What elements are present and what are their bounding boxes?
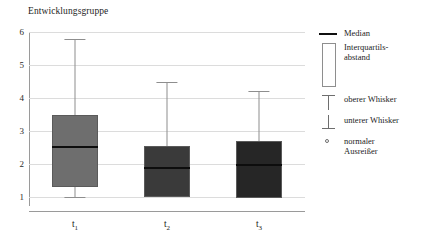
legend-item-outlier: normaler Ausreißer	[318, 136, 422, 156]
legend-label-median: Median	[344, 28, 370, 38]
legend-item-median: Median	[318, 28, 422, 38]
y-tick-label: 3	[20, 126, 25, 136]
upper-whisker	[167, 82, 168, 145]
boxplot-t3	[236, 32, 282, 206]
legend-label-outlier: normaler Ausreißer	[344, 136, 378, 156]
legend-label-iqr: Interquartils- abstand	[344, 42, 388, 62]
y-tick-label: 5	[20, 60, 25, 70]
legend-item-lower-whisker: unterer Whisker	[318, 115, 422, 132]
upper-whisker	[259, 91, 260, 140]
y-tick-label: 2	[20, 159, 25, 169]
lower-whisker	[75, 187, 76, 197]
y-tick-label: 1	[20, 192, 25, 202]
iqr-box	[52, 115, 98, 187]
legend-label-lower-whisker: unterer Whisker	[344, 115, 399, 125]
median-line	[236, 164, 282, 166]
upper-whisker-cap	[64, 39, 85, 40]
boxplot-chart-page: Entwicklungsgruppe 654321 t1t2t3 Median …	[0, 0, 422, 240]
legend-item-upper-whisker: oberer Whisker	[318, 94, 422, 111]
iqr-box	[144, 146, 190, 197]
y-axis-line	[29, 32, 30, 206]
x-tick-label-t2: t2	[164, 219, 170, 232]
upper-whisker-cap	[156, 82, 177, 83]
page-title: Entwicklungsgruppe	[28, 6, 108, 16]
boxplot-t1	[52, 32, 98, 206]
legend: Median Interquartils- abstand oberer Whi…	[318, 28, 422, 160]
upper-whisker-cap	[248, 91, 269, 92]
x-tick-label-t3: t3	[256, 219, 262, 232]
legend-item-iqr: Interquartils- abstand	[318, 42, 422, 90]
y-tick-label: 4	[20, 93, 25, 103]
x-tick-label-t1: t1	[72, 219, 78, 232]
lower-whisker-cap	[64, 197, 85, 198]
upper-whisker	[75, 39, 76, 116]
boxplot-t2	[144, 32, 190, 206]
y-tick-label: 6	[20, 27, 25, 37]
iqr-box	[236, 141, 282, 199]
median-line	[52, 146, 98, 148]
x-axis-line	[29, 211, 305, 212]
median-line	[144, 167, 190, 169]
plot-area: 654321 t1t2t3	[29, 32, 305, 206]
legend-label-upper-whisker: oberer Whisker	[344, 94, 396, 104]
